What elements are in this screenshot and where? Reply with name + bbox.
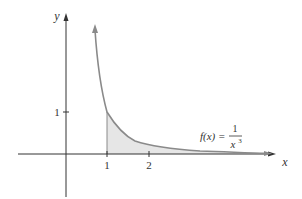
- shaded-region: [107, 112, 272, 154]
- x-axis-label: x: [281, 155, 288, 169]
- x-tick-label-2: 2: [146, 159, 152, 171]
- function-label-numerator: 1: [233, 123, 238, 134]
- chart: 1 2 1 x y f(x) = 1 x 3: [0, 0, 302, 199]
- x-tick-label-1: 1: [104, 159, 110, 171]
- y-axis-arrow-icon: [64, 13, 69, 21]
- function-label-denominator: x: [230, 138, 236, 150]
- function-label-exponent: 3: [238, 137, 242, 145]
- y-tick-label-1: 1: [54, 106, 60, 118]
- curve-arrow-up-icon: [92, 24, 98, 33]
- y-axis-label: y: [53, 9, 60, 23]
- function-label-lhs: f(x) =: [200, 130, 225, 143]
